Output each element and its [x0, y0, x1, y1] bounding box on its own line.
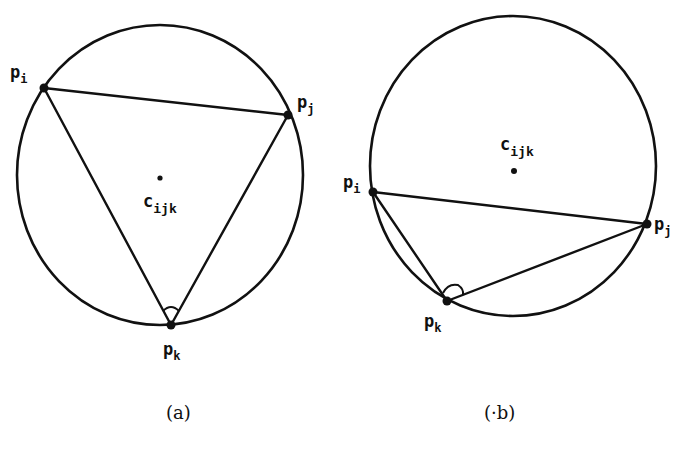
caption-b: (·b)	[484, 402, 515, 423]
panel-a: pi pj pk cijk (a)	[10, 25, 314, 423]
label-pk-a: pk	[163, 339, 181, 363]
caption-a: (a)	[166, 402, 191, 423]
label-pi-a: pi	[10, 62, 27, 86]
label-pj-a: pj	[297, 92, 314, 116]
vertex-pk-a	[167, 321, 176, 330]
angle-marker-a	[163, 307, 179, 311]
angle-marker-b	[443, 285, 463, 295]
circumcircle-a	[17, 25, 303, 325]
center-dot-a	[157, 175, 162, 180]
triangle-b	[373, 192, 647, 301]
vertex-pk-b	[443, 297, 452, 306]
vertex-pj-b	[643, 220, 652, 229]
label-pi-b: pi	[343, 172, 360, 196]
center-dot-b	[511, 168, 517, 174]
vertex-pi-b	[369, 188, 378, 197]
label-pj-b: pj	[654, 214, 671, 238]
vertex-pi-a	[40, 84, 49, 93]
label-center-b: cijk	[500, 134, 534, 159]
vertex-pj-a	[284, 111, 293, 120]
figure-canvas: pi pj pk cijk (a) pi pj pk cijk (·b)	[0, 0, 681, 458]
label-center-a: cijk	[143, 191, 177, 216]
panel-b: pi pj pk cijk (·b)	[343, 16, 671, 423]
circumcircle-b	[370, 16, 656, 316]
label-pk-b: pk	[424, 311, 442, 335]
